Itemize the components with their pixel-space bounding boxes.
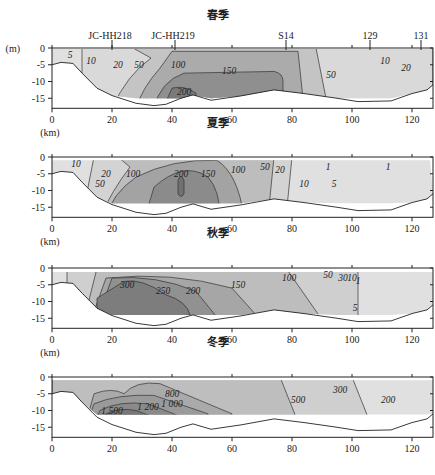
x-tick-label: 0 [50, 334, 55, 345]
contour-label: 5 [332, 179, 337, 189]
contour-label: 10 [71, 159, 81, 169]
panel-title: 冬季 [207, 335, 230, 348]
x-tick-label: 40 [167, 443, 177, 454]
contour-label: 20 [275, 165, 285, 175]
contour-label: 250 [156, 286, 171, 296]
contour-label: 150 [231, 280, 246, 290]
contour-label: 150 [222, 66, 237, 76]
y-tick-label: -15 [32, 313, 45, 324]
x-tick-label: 80 [287, 334, 297, 345]
contour-label: 1 [326, 162, 331, 172]
contour-label: 1 500 [101, 406, 123, 416]
contour-fill [52, 268, 433, 328]
contour-label: 150 [201, 169, 216, 179]
panel-3: 0-5-10-15020406080100120(km)秋季3002502001… [32, 226, 433, 359]
x-tick-label: 20 [107, 114, 117, 125]
y-tick-label: -15 [32, 93, 45, 104]
contour-label: 1 000 [161, 399, 183, 409]
contour-fill [52, 48, 433, 108]
y-tick-label: -10 [32, 405, 45, 416]
contour-label: 200 [381, 395, 396, 405]
panel-2: 0-5-10-15020406080100120(km)夏季1020501002… [32, 116, 433, 248]
x-tick-label: 0 [50, 114, 55, 125]
contour-label: 5 [68, 50, 73, 60]
x-tick-label: 100 [345, 443, 360, 454]
x-tick-label: 60 [227, 443, 237, 454]
contour-label: 800 [165, 389, 180, 399]
x-tick-label: 40 [167, 114, 177, 125]
x-tick-label: 120 [405, 114, 420, 125]
x-tick-label: 120 [405, 334, 420, 345]
y-tick-label: -10 [32, 185, 45, 196]
contour-label: 300 [119, 280, 135, 290]
panel-4: 0-5-10-15020406080100120冬季8001 0001 2001… [32, 335, 433, 454]
x-tick-label: 100 [345, 223, 360, 234]
contour-label: 100 [231, 165, 246, 175]
contour-label: 10 [86, 56, 96, 66]
x-tick-label: 20 [107, 223, 117, 234]
contour-label: 50 [323, 270, 333, 280]
x-tick-label: 80 [287, 443, 297, 454]
x-tick-label: 120 [405, 443, 420, 454]
contour-figure: 0-5-10-15020406080100120(km)(m)春季JC-HH21… [0, 0, 435, 475]
contour-label: 100 [282, 273, 297, 283]
x-tick-label: 80 [287, 114, 297, 125]
x-axis-unit: (km) [40, 236, 59, 248]
contour-label: 1 [386, 162, 391, 172]
y-tick-label: 0 [40, 263, 45, 274]
contour-label: 300 [332, 385, 348, 395]
contour-label: 100 [126, 169, 141, 179]
y-tick-label: -5 [37, 59, 45, 70]
x-tick-label: 20 [107, 334, 117, 345]
station-label: JC-HH219 [151, 30, 194, 41]
contour-label: 200 [186, 286, 201, 296]
x-axis-unit: (km) [40, 127, 59, 139]
contour-label: 50 [134, 60, 144, 70]
x-tick-label: 20 [107, 443, 117, 454]
contour-label: 50 [95, 179, 105, 189]
y-tick-label: 0 [40, 372, 45, 383]
y-tick-label: -5 [37, 279, 45, 290]
station-label: S14 [278, 30, 294, 41]
contour-label: 500 [291, 395, 306, 405]
contour-label: 20 [401, 63, 411, 73]
contour-label: 5 [353, 303, 358, 313]
contour-label: 200 [174, 169, 189, 179]
y-tick-label: -10 [32, 296, 45, 307]
y-tick-label: -10 [32, 76, 45, 87]
x-tick-label: 40 [167, 334, 177, 345]
y-tick-label: -15 [32, 202, 45, 213]
x-axis-unit: (km) [40, 347, 59, 359]
x-tick-label: 100 [345, 114, 360, 125]
contour-label: 20 [113, 60, 123, 70]
contour-label: 1 [356, 276, 361, 286]
y-axis-unit: (m) [6, 43, 20, 55]
contour-label: 1 200 [137, 402, 159, 412]
y-tick-label: -15 [32, 422, 45, 433]
station-label: 129 [363, 30, 378, 41]
panel-title: 秋季 [207, 226, 230, 239]
station-label: 131 [414, 30, 429, 41]
contour-label: 20 [101, 169, 111, 179]
x-tick-label: 0 [50, 443, 55, 454]
contour-label: 10 [380, 56, 390, 66]
station-label: JC-HH218 [88, 30, 131, 41]
panel-title: 夏季 [207, 116, 230, 129]
contour-label: 50 [326, 70, 336, 80]
y-tick-label: 0 [40, 152, 45, 163]
panel-title: 春季 [207, 8, 230, 21]
y-tick-label: 0 [40, 43, 45, 54]
contour-label: 10 [299, 179, 309, 189]
x-tick-label: 100 [345, 334, 360, 345]
contour-label: 200 [177, 87, 192, 97]
x-tick-label: 0 [50, 223, 55, 234]
x-tick-label: 40 [167, 223, 177, 234]
y-tick-label: -5 [37, 168, 45, 179]
x-tick-label: 120 [405, 223, 420, 234]
x-tick-label: 80 [287, 223, 297, 234]
contour-label: 100 [171, 60, 186, 70]
y-tick-label: -5 [37, 388, 45, 399]
contour-label: 50 [260, 162, 270, 172]
